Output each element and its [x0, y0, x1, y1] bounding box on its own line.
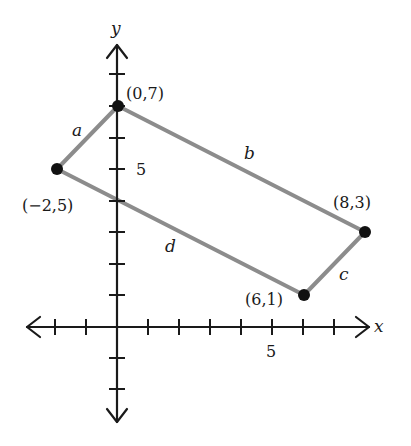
coordinate-plane: y x 5 5 (0,7) (8,3) (6,1) (−2,5) a b c d [0, 0, 411, 446]
y-axis-label: y [110, 18, 121, 38]
side-label-d: d [165, 236, 176, 256]
vertex-label-8-3: (8,3) [333, 193, 371, 212]
side-b [118, 106, 365, 232]
y-tick-label-5: 5 [136, 160, 146, 179]
vertex-label-0-7: (0,7) [126, 84, 164, 103]
side-label-a: a [72, 120, 82, 140]
x-axis-label: x [374, 316, 384, 336]
side-a [57, 106, 118, 169]
vertex-label-neg2-5: (−2,5) [22, 196, 73, 215]
vertex-point-0-7 [112, 100, 124, 112]
side-label-c: c [339, 264, 349, 284]
vertex-point-8-3 [359, 226, 371, 238]
vertex-label-6-1: (6,1) [245, 290, 283, 309]
x-tick-label-5: 5 [266, 342, 276, 361]
vertex-point-neg2-5 [51, 163, 63, 175]
side-label-b: b [244, 143, 255, 163]
vertex-point-6-1 [298, 289, 310, 301]
side-d [57, 169, 304, 295]
side-c [304, 232, 365, 295]
